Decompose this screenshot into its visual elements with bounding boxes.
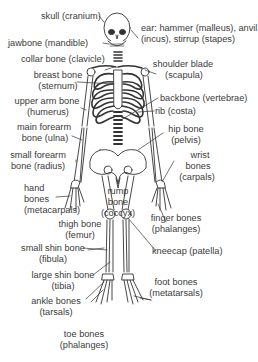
- label-rib: rib (costa): [155, 106, 196, 117]
- label-ear-line2: (incus), stirrup (stapes): [141, 34, 235, 45]
- label-hip-bone-line1: hip bone: [160, 124, 212, 135]
- label-wrist-line1: wrist: [180, 150, 220, 161]
- label-ear-line1: ear: hammer (malleus), anvil: [141, 23, 257, 34]
- pelvis-icon: [90, 150, 147, 188]
- label-collar-bone: collar bone (clavicle): [21, 54, 105, 65]
- label-shoulder-blade-line1: shoulder blade: [148, 59, 218, 70]
- label-thigh-line2: (femur): [52, 230, 108, 241]
- label-shoulder-blade-line2: (scapula): [154, 70, 214, 81]
- label-skull: skull (cranium): [41, 11, 101, 22]
- label-ulna-line1: main forearm: [14, 122, 74, 133]
- label-jawbone: jawbone (mandible): [8, 38, 88, 49]
- label-hand-line2: bones: [24, 194, 49, 205]
- label-finger-line1: finger bones: [144, 213, 208, 224]
- label-rump-line2: bone: [98, 197, 138, 208]
- label-toe-line1: toe bones: [54, 329, 114, 340]
- label-foot-line1: foot bones: [146, 277, 206, 288]
- label-upper-arm-line2: (humerus): [18, 107, 78, 118]
- label-ankle-line2: (tarsals): [24, 307, 88, 318]
- label-breast-bone-line1: breast bone: [28, 70, 88, 81]
- label-breast-bone-line2: (sternum): [30, 81, 86, 92]
- label-fibula-line2: (fibula): [18, 254, 88, 265]
- label-kneecap: kneecap (patella): [152, 246, 222, 257]
- label-foot-line2: (metatarsals): [146, 288, 206, 299]
- skeleton-diagram: skull (cranium) ear: hammer (malleus), a…: [0, 0, 258, 362]
- label-wrist-line3: (carpals): [174, 172, 220, 183]
- label-backbone: backbone (vertebrae): [160, 93, 247, 104]
- label-radius-line2: bone (radius): [8, 161, 68, 172]
- neck-icon: [114, 52, 122, 61]
- label-hand-line1: hand: [24, 183, 44, 194]
- label-rump-line1: rump: [98, 186, 138, 197]
- label-rump-line3: (coccyx): [98, 208, 138, 219]
- label-ankle-line1: ankle bones: [24, 296, 88, 307]
- spine-icon: [114, 112, 122, 144]
- label-radius-line1: small forearm: [8, 150, 68, 161]
- label-wrist-line2: bones: [178, 161, 218, 172]
- label-finger-line2: (phalanges): [144, 224, 208, 235]
- label-tibia-line1: large shin bone: [28, 270, 98, 281]
- label-ulna-line2: bone (ulna): [14, 133, 76, 144]
- label-thigh-line1: thigh bone: [52, 219, 108, 230]
- label-upper-arm-line1: upper arm bone: [14, 96, 80, 107]
- label-hand-line3: (metacarpals): [24, 205, 80, 216]
- label-toe-line2: (phalanges): [54, 340, 114, 351]
- label-tibia-line2: (tibia): [28, 281, 98, 292]
- label-fibula-line1: small shin bone: [18, 243, 88, 254]
- skull-icon: [104, 13, 130, 46]
- label-hip-bone-line2: (pelvis): [160, 135, 212, 146]
